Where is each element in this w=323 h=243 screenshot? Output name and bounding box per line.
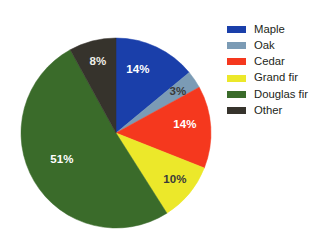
legend-item-grand-fir[interactable]: Grand fir <box>227 70 323 86</box>
legend-item-maple[interactable]: Maple <box>227 21 323 37</box>
pie-chart-svg: 14%3%14%10%51%8% <box>0 0 223 243</box>
pie-slice-label-grand-fir: 10% <box>163 173 186 185</box>
legend-label-other: Other <box>254 105 282 116</box>
pie-slice-label-other: 8% <box>90 55 107 67</box>
legend-swatch-cedar <box>227 58 246 65</box>
legend-label-douglas-fir: Douglas fir <box>254 89 308 100</box>
pie-slice-label-maple: 14% <box>126 63 149 75</box>
legend-swatch-douglas-fir <box>227 91 246 98</box>
pie-chart-figure: 14%3%14%10%51%8% MapleOakCedarGrand firD… <box>0 0 323 243</box>
legend-label-oak: Oak <box>254 40 275 51</box>
pie-slice-label-cedar: 14% <box>173 118 196 130</box>
legend-label-cedar: Cedar <box>254 56 285 67</box>
legend-swatch-other <box>227 107 246 114</box>
legend-swatch-oak <box>227 42 246 49</box>
legend-item-douglas-fir[interactable]: Douglas fir <box>227 86 323 102</box>
legend-item-other[interactable]: Other <box>227 102 323 118</box>
pie-chart-plot-area: 14%3%14%10%51%8% <box>0 0 223 243</box>
legend-swatch-maple <box>227 26 246 33</box>
legend-item-oak[interactable]: Oak <box>227 37 323 53</box>
pie-slice-label-douglas-fir: 51% <box>50 153 73 165</box>
legend-item-cedar[interactable]: Cedar <box>227 54 323 70</box>
legend-label-maple: Maple <box>254 24 285 35</box>
legend-swatch-grand-fir <box>227 75 246 82</box>
chart-legend: MapleOakCedarGrand firDouglas firOther <box>227 21 323 119</box>
legend-label-grand-fir: Grand fir <box>254 72 298 83</box>
pie-slice-label-oak: 3% <box>170 85 187 97</box>
